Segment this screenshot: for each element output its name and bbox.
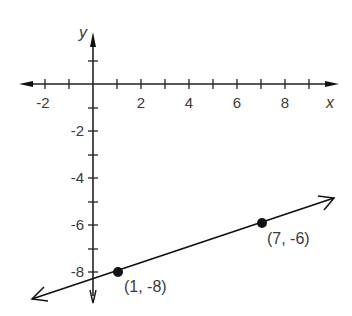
x-axis-label: x [325,94,335,111]
x-tick-label: 2 [137,94,145,111]
x-tick-label: 4 [185,94,193,111]
x-tick-label: 6 [233,94,241,111]
x-tick-label: -2 [36,94,49,111]
y-axis-up-arrow-icon [90,32,96,47]
y-axis-label: y [78,24,88,41]
x-axis: -2 2 4 6 8 x [19,79,339,111]
plotted-line [32,196,334,301]
point-marker [257,218,267,228]
point-label: (7, -6) [267,230,310,247]
coordinate-plane: -2 2 4 6 8 x -2 -4 -6 -8 y [0,0,352,316]
y-axis: -2 -4 -6 -8 y [71,24,98,303]
point-7-neg6: (7, -6) [257,218,310,247]
point-1-neg8: (1, -8) [113,267,167,295]
y-tick-label: -2 [71,122,84,139]
point-label: (1, -8) [124,278,167,295]
y-tick-label: -4 [71,169,84,186]
x-tick-label: 8 [281,94,289,111]
x-axis-right-arrow-icon [325,81,339,87]
y-tick-label: -8 [71,263,84,280]
y-tick-label: -6 [71,216,84,233]
x-axis-left-arrow-icon [19,81,33,87]
point-marker [113,267,123,277]
